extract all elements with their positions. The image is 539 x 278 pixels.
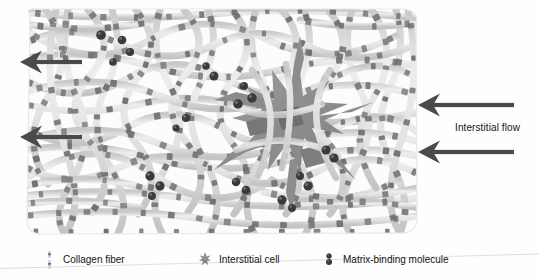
fiber-band [28,212,34,218]
fiber-band [110,79,117,87]
legend-label-matrix-binding-molecule: Matrix-binding molecule [343,255,449,265]
fiber-band [226,74,231,81]
legend-label-collagen-fiber: Collagen fiber [63,255,125,265]
fiber-band [388,182,394,188]
fiber-band [141,210,146,216]
fiber-band [392,201,399,207]
fiber-band [192,151,199,158]
fiber-band [112,209,117,215]
fiber-band [176,193,181,200]
matrix-binding-molecule [172,124,179,131]
fiber-band [145,98,153,106]
fiber-band [328,83,333,90]
fiber-band [312,193,319,200]
matrix-binding-molecule [240,82,248,90]
fiber-band [305,18,312,26]
fiber-band [68,12,73,19]
fiber-band [142,190,147,196]
matrix-binding-molecule [288,204,296,212]
matrix-binding-molecule-icon [322,250,336,270]
fiber-band [205,194,212,201]
fiber-band [307,50,313,56]
fiber-band [61,176,67,183]
fiber-band [396,13,401,19]
fiber-band [103,200,108,206]
fiber-band [396,20,402,25]
fiber-band [56,210,62,217]
matrix-binding-molecule [242,186,251,195]
matrix-binding-molecule [126,48,134,56]
fiber-band [244,39,250,45]
fiber-band [224,218,231,225]
fiber-band [105,152,111,159]
fiber-band [144,50,151,58]
fiber-band [382,191,389,198]
flow-arrow-right-top [418,94,514,117]
matrix-binding-molecule [303,181,312,190]
fiber-band [84,209,91,215]
fiber-band [336,220,343,227]
fiber-band [107,189,112,195]
fiber-band [395,58,403,66]
fiber-band [147,184,154,191]
flow-arrow-right-bottom [418,141,514,164]
legend-item-collagen-fiber: Collagen fiber [42,250,125,270]
fiber-band [365,56,370,63]
fiber-band [37,22,44,29]
fiber-band [71,25,78,31]
fiber-band [383,147,390,154]
fiber-band [166,14,172,20]
matrix-binding-molecule [329,153,338,162]
fiber-band [35,10,41,17]
fiber-band [102,172,109,177]
fiber-band [338,23,344,29]
fiber-band [138,20,145,27]
fiber-band [30,200,35,206]
fiber-band [341,119,346,125]
fiber-band [309,195,314,202]
fiber-band [39,191,44,198]
fiber-band [171,161,178,168]
fiber-band [308,221,314,228]
fiber-band [243,167,251,175]
matrix-binding-molecule [145,171,154,180]
matrix-binding-molecule [148,192,156,200]
fiber-band [209,229,215,235]
fiber-band [139,229,143,236]
fiber-band [198,73,203,80]
legend: Collagen fiber Interstitial cell [0,240,539,278]
fiber-band [94,114,100,120]
matrix-binding-molecule [96,30,106,40]
fiber-band [208,165,213,171]
fiber-band [34,229,39,236]
fiber-band [100,14,106,21]
fiber-band [59,46,65,51]
collagen-fiber-icon [42,250,56,270]
fiber-band [363,10,369,16]
interstitial-flow-label: Interstitial flow [455,122,520,133]
matrix-binding-molecule [232,178,240,186]
fiber-band [314,229,321,235]
fiber-band [71,183,78,188]
fiber-band [364,218,371,225]
fiber-band [382,198,388,205]
fiber-band [71,109,78,114]
fiber-band [169,68,176,75]
matrix-binding-molecule [296,172,304,180]
fiber-band [31,146,38,152]
fiber-band [336,53,343,60]
fiber-band [347,147,354,154]
fiber-band [357,138,364,142]
fiber-band [350,229,354,235]
matrix-binding-molecule [210,72,219,81]
fiber-band [309,60,314,66]
interstitial-cell-icon [198,250,212,270]
matrix-binding-molecule [247,93,256,102]
matrix-binding-molecule [321,145,330,154]
fiber-band [151,202,158,207]
fiber-band [376,52,382,59]
fiber-band [73,189,78,195]
matrix-binding-molecule [118,36,127,45]
fiber-band [280,222,287,228]
fiber-band [62,21,69,28]
